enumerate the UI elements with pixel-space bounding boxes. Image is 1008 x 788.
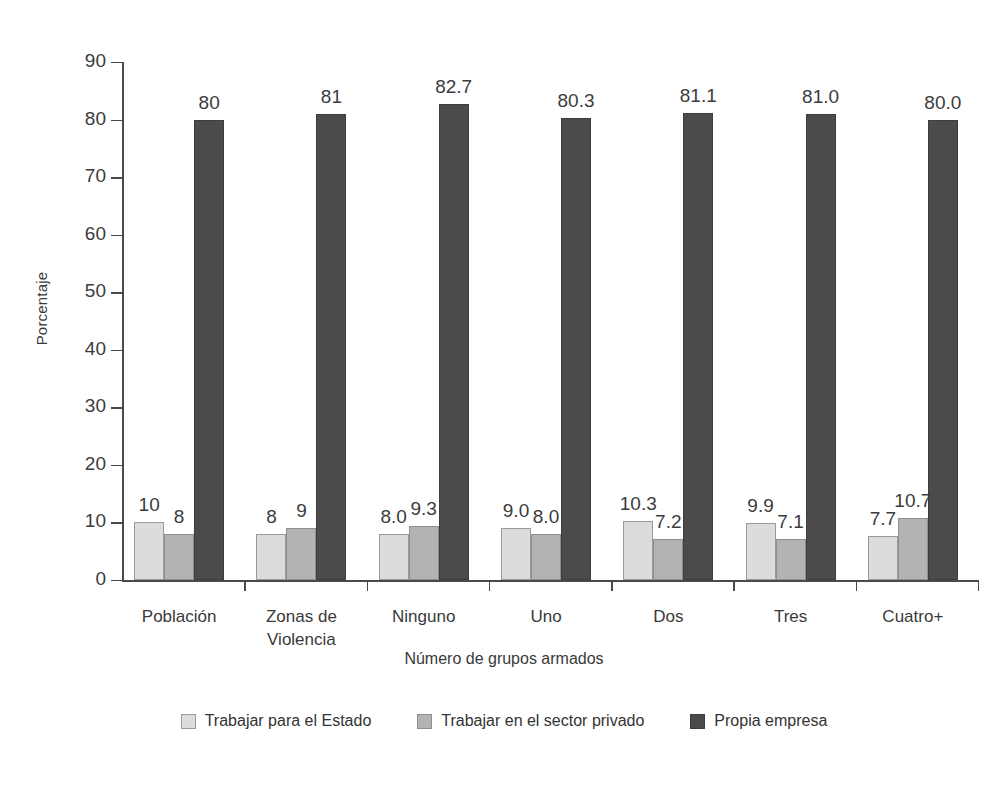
bar <box>501 528 531 580</box>
y-axis-tick-label: 0 <box>62 568 106 590</box>
y-axis-tick-label: 60 <box>62 223 106 245</box>
x-axis-category-label: Ninguno <box>392 605 455 628</box>
bar <box>561 118 591 580</box>
bar <box>439 104 469 580</box>
x-axis-tick-mark <box>489 580 490 591</box>
x-axis-line <box>122 580 978 582</box>
bar <box>928 120 958 580</box>
x-axis-tick-mark <box>733 580 734 591</box>
x-axis-category-label: Zonas de Violencia <box>266 605 337 652</box>
bar-value-label: 8 <box>266 506 277 528</box>
y-axis-tick-mark <box>111 580 122 581</box>
x-axis-tick-mark <box>244 580 245 591</box>
bar <box>316 114 346 580</box>
x-axis-category-label: Uno <box>530 605 561 628</box>
bar <box>776 539 806 580</box>
bar-value-label: 80 <box>199 92 220 114</box>
x-axis-tick-mark <box>367 580 368 591</box>
bar <box>194 120 224 580</box>
bar-value-label: 9 <box>296 500 307 522</box>
legend-item-label: Trabajar en el sector privado <box>441 712 644 730</box>
y-axis-tick-label: 50 <box>62 280 106 302</box>
bar <box>806 114 836 580</box>
bar <box>746 523 776 580</box>
bar-value-label: 10.7 <box>894 490 931 512</box>
y-axis-line <box>122 62 124 580</box>
bar-value-label: 7.1 <box>777 511 803 533</box>
y-axis-tick-label: 40 <box>62 338 106 360</box>
x-axis-category-label: Cuatro+ <box>882 605 943 628</box>
bar-value-label: 9.0 <box>503 500 529 522</box>
plot-area: 0102030405060708090 1088089818.09.382.79… <box>122 62 978 580</box>
y-axis-tick-label: 20 <box>62 453 106 475</box>
bar <box>653 539 683 580</box>
x-axis-title: Número de grupos armados <box>0 650 1008 668</box>
y-axis-tick-label: 90 <box>62 50 106 72</box>
bar <box>868 536 898 580</box>
bar-value-label: 81.1 <box>680 85 717 107</box>
y-axis-tick-mark <box>111 177 122 178</box>
legend-item-label: Trabajar para el Estado <box>205 712 372 730</box>
y-axis-tick-mark <box>111 120 122 121</box>
bar-value-label: 7.2 <box>655 511 681 533</box>
bar-value-label: 8.0 <box>533 506 559 528</box>
bar-value-label: 81 <box>321 86 342 108</box>
chart-legend: Trabajar para el EstadoTrabajar en el se… <box>0 712 1008 730</box>
bar-value-label: 8 <box>174 506 185 528</box>
bar-value-label: 10.3 <box>620 493 657 515</box>
bar <box>683 113 713 580</box>
y-axis-tick-label: 70 <box>62 165 106 187</box>
light-gray-swatch <box>181 714 196 729</box>
bar-chart: Porcentaje 0102030405060708090 108808981… <box>0 0 1008 788</box>
bar-value-label: 10 <box>139 494 160 516</box>
bar-value-label: 81.0 <box>802 86 839 108</box>
bar-value-label: 80.0 <box>924 92 961 114</box>
y-axis-tick-mark <box>111 407 122 408</box>
legend-item[interactable]: Trabajar en el sector privado <box>417 712 644 730</box>
y-axis-tick-mark <box>111 350 122 351</box>
x-axis-category-label: Población <box>142 605 217 628</box>
y-axis-tick-mark <box>111 465 122 466</box>
bar-value-label: 9.3 <box>410 498 436 520</box>
legend-item[interactable]: Propia empresa <box>690 712 827 730</box>
dark-gray-swatch <box>690 714 705 729</box>
bar <box>379 534 409 580</box>
x-axis-category-label: Dos <box>653 605 683 628</box>
medium-gray-swatch <box>417 714 432 729</box>
x-axis-tick-mark <box>978 580 979 591</box>
y-axis-tick-label: 30 <box>62 395 106 417</box>
bar-value-label: 7.7 <box>870 508 896 530</box>
legend-item-label: Propia empresa <box>714 712 827 730</box>
bar-value-label: 82.7 <box>435 76 472 98</box>
bar <box>286 528 316 580</box>
y-axis-tick-mark <box>111 62 122 63</box>
x-axis-tick-mark <box>856 580 857 591</box>
x-axis-tick-mark <box>611 580 612 591</box>
bar-value-label: 8.0 <box>380 506 406 528</box>
y-axis-tick-label: 10 <box>62 510 106 532</box>
y-axis-title: Porcentaje <box>33 249 50 369</box>
bar-value-label: 80.3 <box>558 90 595 112</box>
x-axis-category-label: Tres <box>774 605 807 628</box>
bar <box>898 518 928 580</box>
bar-value-label: 9.9 <box>747 495 773 517</box>
legend-item[interactable]: Trabajar para el Estado <box>181 712 372 730</box>
bar <box>134 522 164 580</box>
y-axis-tick-mark <box>111 522 122 523</box>
y-axis-tick-mark <box>111 235 122 236</box>
bar <box>256 534 286 580</box>
bar <box>164 534 194 580</box>
bar <box>531 534 561 580</box>
y-axis-tick-label: 80 <box>62 108 106 130</box>
bar <box>623 521 653 580</box>
y-axis-tick-mark <box>111 292 122 293</box>
bar <box>409 526 439 580</box>
